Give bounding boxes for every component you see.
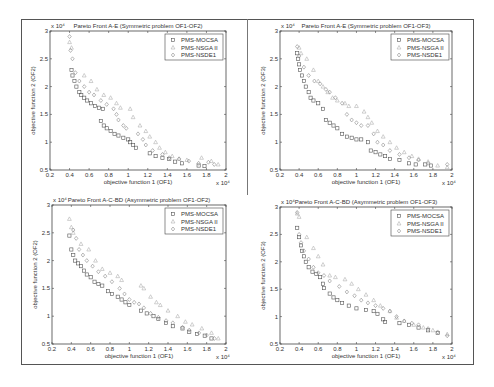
y-tick-label: 1.5: [42, 285, 51, 291]
x-tick-label: 0.4: [295, 172, 304, 178]
chart-br: Pareto Front A-C-BD (Asymmetric problem …: [260, 199, 456, 360]
y-tick-label: 0.5: [270, 167, 279, 173]
figure-canvas: Pareto Front A-E (Symmetric problem OF1-…: [0, 0, 494, 387]
legend-entry: PMS-MOCSA: [407, 213, 444, 219]
legend-entry: PMS-MOCSA: [181, 37, 218, 43]
legend-entry: PMS-MOCSA: [181, 211, 218, 217]
x-axis-label: objective function 1 (OF1): [332, 353, 401, 359]
y-axis-label: objective function 2 (OF3): [260, 241, 266, 310]
legend-entry: PMS-NSGA II: [181, 219, 218, 225]
legend: PMS-MOCSAPMS-NSGA IIPMS-NSDE1: [165, 208, 223, 234]
x-tick-label: 1.2: [371, 172, 380, 178]
y-tick-label: 2.5: [270, 56, 279, 62]
y-tick-label: 1.5: [270, 286, 279, 292]
legend: PMS-MOCSAPMS-NSGA IIPMS-NSDE1: [391, 210, 449, 236]
x-exponent-label: x 10⁴: [216, 354, 230, 360]
x-tick-label: 1.8: [429, 172, 438, 178]
x-tick-label: 0.8: [333, 172, 342, 178]
legend: PMS-MOCSAPMS-NSGA IIPMS-NSDE1: [391, 34, 449, 60]
y-tick-label: 1: [45, 139, 49, 145]
y-exponent-label: x 10⁴: [281, 199, 295, 205]
legend-entry: PMS-MOCSA: [407, 37, 444, 43]
x-tick-label: 1.4: [390, 346, 399, 352]
x-tick-label: 0.8: [106, 346, 115, 352]
x-tick-label: 1.8: [202, 172, 211, 178]
legend-entry: PMS-NSGA II: [407, 45, 444, 51]
x-tick-label: 0.6: [86, 346, 95, 352]
chart-tr: Pareto Front A-E (Symmetric problem OF1-…: [260, 23, 456, 186]
chart-title: Pareto Front A-E (Symmetric problem OF1-…: [73, 23, 202, 29]
y-exponent-label: x 10⁴: [53, 197, 67, 203]
y-axis-label: objective function 2 (OF2): [32, 240, 38, 309]
x-tick-label: 0.8: [104, 172, 113, 178]
legend-entry: PMS-NSGA II: [181, 45, 218, 51]
y-tick-label: 1.5: [270, 111, 279, 117]
x-tick-label: 1.6: [410, 172, 419, 178]
x-tick-label: 2: [450, 172, 454, 178]
legend: PMS-MOCSAPMS-NSGA IIPMS-NSDE1: [165, 34, 223, 60]
x-tick-label: 1: [128, 346, 132, 352]
x-tick-label: 1.2: [144, 172, 153, 178]
x-exponent-label: x 10⁴: [442, 354, 456, 360]
x-tick-label: 1.2: [144, 346, 153, 352]
x-tick-label: 0.4: [295, 346, 304, 352]
y-tick-label: 1: [47, 313, 51, 319]
y-axis-label: objective function 2 (OF2): [30, 66, 36, 135]
x-tick-label: 0.8: [333, 346, 342, 352]
x-tick-label: 1.8: [202, 346, 211, 352]
chart-bl: Pareto Front A-C-BD (Asymmetric problem …: [32, 197, 230, 360]
chart-title: Pareto Front A-C-BD (Asymmetric problem …: [295, 199, 438, 205]
x-tick-label: 1.2: [371, 346, 380, 352]
chart-tl: Pareto Front A-E (Symmetric problem OF1-…: [30, 23, 230, 186]
x-tick-label: 2: [450, 346, 454, 352]
y-tick-label: 2: [275, 84, 279, 90]
y-tick-label: 3: [47, 202, 51, 208]
x-axis-label: objective function 1 (OF1): [332, 179, 401, 185]
x-axis-label: objective function 1 (OF1): [105, 353, 174, 359]
x-exponent-label: x 10⁴: [216, 180, 230, 186]
y-tick-label: 2: [275, 259, 279, 265]
x-tick-label: 1: [355, 346, 359, 352]
x-tick-label: 1.6: [410, 346, 419, 352]
x-tick-label: 1.8: [429, 346, 438, 352]
chart-title: Pareto Front A-C-BD (Asymmetric problem …: [68, 197, 211, 203]
y-exponent-label: x 10⁴: [51, 23, 65, 29]
x-axis-label: objective function 1 (OF1): [104, 179, 173, 185]
x-tick-label: 2: [224, 346, 228, 352]
x-tick-label: 1.4: [163, 172, 172, 178]
legend-entry: PMS-NSDE1: [407, 228, 443, 234]
y-tick-label: 0.5: [42, 341, 51, 347]
y-tick-label: 2: [47, 258, 51, 264]
x-tick-label: 0.4: [65, 172, 74, 178]
x-exponent-label: x 10⁴: [442, 180, 456, 186]
x-tick-label: 1.6: [183, 346, 192, 352]
legend-entry: PMS-NSGA II: [407, 221, 444, 227]
x-tick-label: 1.4: [164, 346, 173, 352]
y-tick-label: 0.5: [270, 341, 279, 347]
legend-entry: PMS-NSDE1: [407, 52, 443, 58]
y-tick-label: 1: [275, 139, 279, 145]
y-axis-label: objective function 2 (OF3): [260, 66, 266, 135]
x-tick-label: 2: [224, 172, 228, 178]
y-tick-label: 3: [275, 28, 279, 34]
x-tick-label: 0.4: [67, 346, 76, 352]
y-tick-label: 1.5: [40, 111, 49, 117]
x-tick-label: 1.6: [183, 172, 192, 178]
legend-entry: PMS-NSDE1: [181, 52, 217, 58]
y-tick-label: 0.5: [40, 167, 49, 173]
y-tick-label: 2.5: [42, 230, 51, 236]
x-tick-label: 0.6: [314, 346, 323, 352]
x-tick-label: 1: [127, 172, 131, 178]
x-tick-label: 1: [355, 172, 359, 178]
y-tick-label: 2.5: [270, 231, 279, 237]
y-tick-label: 2.5: [40, 56, 49, 62]
legend-entry: PMS-NSDE1: [181, 226, 217, 232]
y-exponent-label: x 10⁴: [281, 23, 295, 29]
y-tick-label: 2: [45, 84, 49, 90]
chart-title: Pareto Front A-E (Symmetric problem OF1-…: [301, 23, 430, 29]
x-tick-label: 1.4: [390, 172, 399, 178]
x-tick-label: 0.6: [314, 172, 323, 178]
x-tick-label: 0.6: [85, 172, 94, 178]
y-tick-label: 3: [45, 28, 49, 34]
y-tick-label: 1: [275, 314, 279, 320]
